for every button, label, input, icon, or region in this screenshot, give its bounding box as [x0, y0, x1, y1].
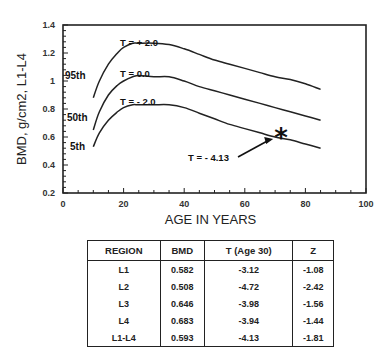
table-row: L4 0.683 -3.94 -1.44: [88, 312, 334, 329]
cell-region: L2: [88, 278, 161, 295]
y-tick-label: 1: [50, 76, 55, 86]
header-region: REGION: [88, 241, 161, 261]
bmd-results-table: REGION BMD T (Age 30) Z L1 0.582 -3.12 -…: [87, 240, 334, 347]
cell-bmd: 0.582: [160, 261, 204, 279]
cell-z-score: -1.81: [293, 329, 334, 347]
y-tick-label: 0.4: [42, 160, 55, 170]
cell-bmd: 0.646: [160, 295, 204, 312]
y-tick-label: 0.6: [42, 132, 55, 142]
cell-z-score: -1.08: [293, 261, 334, 279]
table-row: L2 0.508 -4.72 -2.42: [88, 278, 334, 295]
y-tick-label: 1.2: [42, 48, 55, 58]
chart-axes: 0.20.40.60.811.21.4020406080100: [42, 20, 373, 209]
y-axis-title: BMD, g/cm2, L1-L4: [14, 53, 29, 165]
cell-region: L1: [88, 261, 161, 279]
curve-t-label: T = 0.0: [120, 68, 150, 79]
cell-bmd: 0.508: [160, 278, 204, 295]
plot-frame: [63, 25, 366, 193]
cell-z-score: -1.44: [293, 312, 334, 329]
table-row: L1 0.582 -3.12 -1.08: [88, 261, 334, 279]
cell-t-score: -4.13: [204, 329, 293, 347]
cell-z-score: -2.42: [293, 278, 334, 295]
table-row: L1-L4 0.593 -4.13 -1.81: [88, 329, 334, 347]
cell-z-score: -1.56: [293, 295, 334, 312]
y-tick-label: 0.8: [42, 104, 55, 114]
percentile-label: 95th: [65, 70, 86, 81]
cell-t-score: -4.72: [204, 278, 293, 295]
cell-t-score: -3.12: [204, 261, 293, 279]
cell-bmd: 0.683: [160, 312, 204, 329]
cell-bmd: 0.593: [160, 329, 204, 347]
cell-region: L4: [88, 312, 161, 329]
patient-t-score-label: T = - 4.13: [188, 152, 229, 163]
header-z-score: Z: [293, 241, 334, 261]
patient-marker-icon: *: [274, 123, 288, 153]
percentile-label: 50th: [67, 112, 88, 123]
bmd-chart: 0.20.40.60.811.21.4020406080100 AGE IN Y…: [0, 0, 387, 230]
cell-t-score: -3.94: [204, 312, 293, 329]
x-axis-title: AGE IN YEARS: [165, 212, 257, 227]
x-tick-label: 100: [358, 199, 373, 209]
curve-t-label: T = + 2.0: [120, 37, 158, 48]
header-t-score: T (Age 30): [204, 241, 293, 261]
arrowhead-icon: [264, 137, 273, 144]
y-tick-label: 1.4: [42, 20, 55, 30]
table-header-row: REGION BMD T (Age 30) Z: [88, 241, 334, 261]
cell-t-score: -3.98: [204, 295, 293, 312]
header-bmd: BMD: [160, 241, 204, 261]
curve-t-label: T = - 2.0: [120, 96, 156, 107]
cell-region: L3: [88, 295, 161, 312]
annotation-arrow: [238, 140, 269, 157]
table-row: L3 0.646 -3.98 -1.56: [88, 295, 334, 312]
percentile-label: 5th: [70, 141, 85, 152]
x-tick-label: 0: [60, 199, 65, 209]
x-tick-label: 60: [240, 199, 250, 209]
x-tick-label: 80: [300, 199, 310, 209]
cell-region: L1-L4: [88, 329, 161, 347]
x-tick-label: 40: [179, 199, 189, 209]
x-tick-label: 20: [119, 199, 129, 209]
y-tick-label: 0.2: [42, 188, 55, 198]
